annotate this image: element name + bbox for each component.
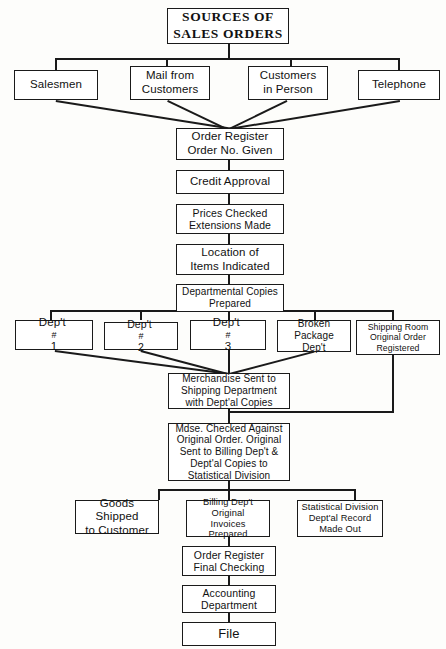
salesmen-label: Salesmen <box>27 78 85 92</box>
dept-3-number: 3 <box>213 340 243 354</box>
location-line-1: Location of <box>198 246 261 260</box>
mdse-line-1: Mdse. Checked Against <box>172 423 285 435</box>
node-shipping-room: Shipping Room Original Order Registered <box>356 320 440 355</box>
goods-line-2: to Customer <box>82 524 152 538</box>
connector-diagonal-salesmen <box>56 100 232 130</box>
billing-line-3: Invoices Prepared <box>187 519 269 541</box>
file-label: File <box>215 626 242 641</box>
billing-line-1: Billing Dep't <box>200 497 256 508</box>
node-prices-checked: Prices Checked Extensions Made <box>176 204 284 234</box>
connector-drop-telephone <box>398 58 400 70</box>
node-goods-shipped-to-customer: Goods Shipped to Customer <box>75 500 159 534</box>
connector-title-stem <box>228 44 230 59</box>
node-mdse-checked-against-original: Mdse. Checked Against Original Order. Or… <box>168 423 290 481</box>
connector-diagonal-broken <box>229 351 315 375</box>
dept-2-number: 2 <box>127 341 155 353</box>
node-order-register-final-checking: Order Register Final Checking <box>182 546 276 576</box>
shipping-room-line-1: Shipping Room <box>365 322 432 332</box>
prices-line-1: Prices Checked <box>190 207 271 219</box>
connector-order-to-credit <box>228 160 230 170</box>
node-broken-package-dept: Broken Package Dep't <box>277 320 351 352</box>
shipping-room-line-2: Original Order <box>367 332 429 342</box>
final-line-1: Order Register <box>191 549 267 561</box>
order-register-line-2: Order No. Given <box>184 144 275 158</box>
node-statistical-division: Statistical Division Dept'al Record Made… <box>297 500 383 537</box>
node-dept-2: Dep't #2 <box>104 322 178 350</box>
node-dept-1: Dep't #1 <box>15 320 93 350</box>
node-title-sources-of-sales-orders: SOURCES OF SALES ORDERS <box>167 8 289 44</box>
connector-credit-to-prices <box>228 194 230 204</box>
node-order-register: Order Register Order No. Given <box>176 128 284 160</box>
connector-location-to-deptcopies <box>228 275 230 284</box>
dept-2-label: Dep't #2 <box>124 318 158 353</box>
merch-line-3: with Dept'al Copies <box>182 397 275 409</box>
node-credit-approval: Credit Approval <box>176 170 284 194</box>
mdse-line-3: Sent to Billing Dep't & <box>177 446 282 458</box>
connector-prices-to-location <box>228 234 230 244</box>
mdse-line-5: Statistical Division <box>185 470 274 482</box>
mdse-line-2: Original Order. Original <box>174 434 285 446</box>
broken-line-1: Broken <box>295 318 333 330</box>
broken-line-2: Package Dep't <box>278 330 350 354</box>
title-line-1: SOURCES OF <box>179 9 277 26</box>
statistical-line-3: Made Out <box>316 524 364 535</box>
node-salesmen: Salesmen <box>14 70 98 100</box>
connector-outputs-bus <box>158 489 356 491</box>
accounting-line-2: Department <box>198 599 260 611</box>
mdse-line-4: Dept'al Copies to <box>187 458 271 470</box>
title-line-2: SALES ORDERS <box>170 26 286 43</box>
billing-line-2: Original <box>209 508 248 519</box>
node-departmental-copies-prepared: Departmental Copies Prepared <box>176 284 284 312</box>
connector-shipping-down <box>392 355 394 413</box>
dept-3-label: Dep't #3 <box>210 316 246 354</box>
connector-drop-shipping-room <box>392 310 394 320</box>
goods-line-1: Goods Shipped <box>76 497 158 524</box>
statistical-line-1: Statistical Division <box>299 502 382 513</box>
accounting-line-1: Accounting <box>200 587 259 599</box>
telephone-label: Telephone <box>369 78 429 92</box>
node-accounting-department: Accounting Department <box>182 585 276 613</box>
statistical-line-2: Dept'al Record <box>306 513 375 524</box>
credit-approval-label: Credit Approval <box>187 175 273 189</box>
node-dept-3: Dep't #3 <box>190 320 266 350</box>
connector-drop-statistical <box>354 489 356 500</box>
shipping-room-line-3: Registered <box>373 343 422 353</box>
connector-merch-to-mdse <box>228 409 230 423</box>
mail-line-2: Customers <box>139 83 202 97</box>
deptcopies-line-2: Prepared <box>206 298 254 310</box>
connector-diagonal-mail <box>167 100 227 130</box>
node-file: File <box>182 622 276 646</box>
deptcopies-line-1: Departmental Copies <box>179 286 281 298</box>
connector-final-to-accounting <box>228 576 230 585</box>
connector-drop-goods-shipped <box>158 489 160 500</box>
connector-accounting-to-file <box>228 613 230 622</box>
connector-drop-salesmen <box>55 58 57 70</box>
node-location-of-items: Location of Items Indicated <box>176 244 284 275</box>
dept-3-hash: # <box>213 330 243 341</box>
location-line-2: Items Indicated <box>187 260 272 274</box>
node-billing-dept: Billing Dep't Original Invoices Prepared <box>186 500 270 537</box>
order-register-line-1: Order Register <box>189 130 272 144</box>
node-customers-in-person: Customers in Person <box>248 66 328 100</box>
node-merchandise-sent-to-shipping: Merchandise Sent to Shipping Department … <box>168 373 290 409</box>
mail-line-1: Mail from <box>143 69 197 83</box>
node-telephone: Telephone <box>358 70 440 100</box>
dept-1-hash: # <box>39 330 69 341</box>
dept-1-number: 1 <box>39 340 69 354</box>
customers-line-2: in Person <box>260 83 315 97</box>
connector-diagonal-dept1 <box>55 350 230 375</box>
flowchart-canvas: SOURCES OF SALES ORDERS Salesmen Mail fr… <box>0 0 446 649</box>
dept-1-label: Dep't #1 <box>36 316 72 354</box>
dept-2-hash: # <box>127 331 155 342</box>
customers-line-1: Customers <box>257 69 320 83</box>
node-mail-from-customers: Mail from Customers <box>130 66 210 100</box>
connector-shipping-left <box>228 411 394 413</box>
prices-line-2: Extensions Made <box>186 219 274 231</box>
merch-line-1: Merchandise Sent to <box>179 373 279 385</box>
final-line-2: Final Checking <box>191 561 268 573</box>
connector-source-bus <box>55 58 400 60</box>
connector-diagonal-customers <box>229 100 287 130</box>
merch-line-2: Shipping Department <box>178 385 280 397</box>
